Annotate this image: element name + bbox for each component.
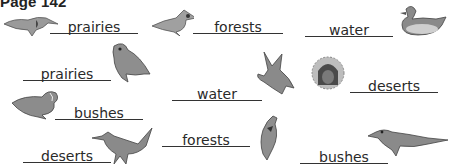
thrasher-bird-icon (368, 124, 450, 160)
answer-text: deserts (368, 78, 420, 94)
answer-text: prairies (68, 19, 121, 35)
flying-duck-bird-icon (252, 48, 298, 100)
page-title: Page 142 (0, 0, 67, 10)
cardinal-bird-icon (150, 4, 194, 36)
answer-line-9[interactable]: forests (162, 130, 250, 147)
answer-text: deserts (41, 148, 93, 164)
answer-line-1[interactable]: prairies (50, 17, 138, 34)
answer-text: forests (214, 19, 262, 35)
quail-bird-icon (8, 85, 60, 121)
answer-text: bushes (319, 149, 369, 165)
sparrow-bird-icon (106, 40, 154, 86)
mallard-duck-bird-icon (392, 3, 448, 41)
answer-text: water (329, 22, 369, 38)
answer-text: water (197, 86, 237, 102)
answer-line-3[interactable]: water (305, 20, 393, 37)
answer-line-2[interactable]: forests (193, 17, 283, 34)
answer-text: bushes (74, 105, 124, 121)
answer-line-6[interactable]: deserts (350, 76, 438, 93)
answer-line-4[interactable]: prairies (23, 64, 111, 81)
roadrunner-bird-icon (92, 128, 158, 168)
woodpecker-bird-icon (253, 114, 283, 164)
answer-line-5[interactable]: water (172, 84, 262, 101)
answer-line-7[interactable]: bushes (55, 103, 143, 120)
answer-text: prairies (41, 66, 94, 82)
owl-in-cactus-hole-icon (310, 55, 346, 91)
answer-text: forests (182, 132, 230, 148)
